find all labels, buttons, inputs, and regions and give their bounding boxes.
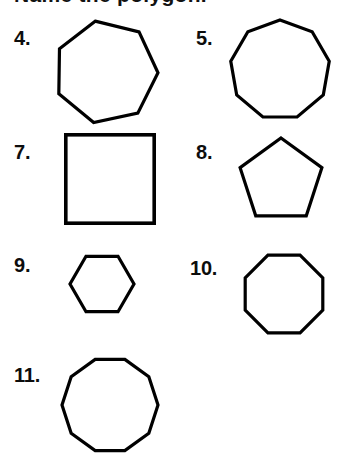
polygon-pentagon — [236, 136, 326, 226]
exercise-number: 10. — [190, 258, 217, 278]
pentagon-outline — [240, 138, 322, 216]
exercise-number: 5. — [196, 28, 212, 48]
polygon-hexagon — [68, 250, 136, 318]
decagon-outline — [62, 359, 158, 450]
polygon-heptagon — [52, 18, 160, 126]
exercise-number: 8. — [196, 142, 212, 162]
heptagon-outline — [59, 21, 158, 122]
exercise-number: 4. — [14, 28, 30, 48]
polygon-octagon — [240, 250, 328, 338]
exercise-number: 11. — [14, 365, 40, 385]
worksheet-heading-text: Name the polygon. — [14, 0, 207, 6]
polygon-worksheet: Name the polygon. 4. 5. 7. 8. 9. 10. 11. — [0, 0, 342, 465]
exercise-number: 7. — [14, 142, 30, 162]
polygon-decagon — [60, 355, 160, 455]
polygon-nonagon — [228, 18, 332, 122]
nonagon-outline — [231, 20, 329, 117]
octagon-outline — [245, 255, 323, 333]
exercise-number: 9. — [14, 255, 30, 275]
worksheet-heading: Name the polygon. — [0, 0, 342, 6]
polygon-square — [64, 133, 156, 225]
hexagon-outline — [70, 256, 134, 311]
square-outline — [66, 135, 154, 223]
